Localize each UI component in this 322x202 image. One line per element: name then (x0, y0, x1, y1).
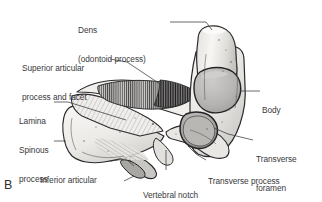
label-inferior-articular-process: Inferior articular process (40, 157, 97, 202)
label-body-line1: Body (262, 106, 281, 116)
label-inferior-articular-line1: Inferior articular (40, 176, 97, 186)
anatomical-figure: Dens (odontoid process) Superior articul… (0, 0, 322, 202)
label-transverse-process-line1: Transverse process (208, 177, 280, 187)
vertebral-notch (153, 138, 173, 165)
label-dens-line2: (odontoid process) (78, 55, 146, 65)
label-spinous-line1: Spinous (19, 146, 49, 156)
label-body: Body (262, 87, 281, 135)
panel-letter: B (4, 178, 12, 192)
label-dens-line1: Dens (78, 26, 146, 36)
label-superior-articular-line1: Superior articular (22, 64, 87, 74)
label-transverse-process: Transverse process (208, 158, 280, 202)
leader-line-facet (124, 176, 134, 181)
label-dens: Dens (odontoid process) (78, 7, 146, 84)
label-vertebral-notch: Vertebral notch (143, 172, 198, 202)
transverse-foramen-inner (183, 116, 215, 146)
label-lamina-line1: Lamina (19, 117, 46, 127)
label-vertebral-notch-line1: Vertebral notch (143, 191, 198, 201)
label-facet-line1: Facet (107, 201, 128, 202)
label-facet: Facet (107, 182, 128, 202)
